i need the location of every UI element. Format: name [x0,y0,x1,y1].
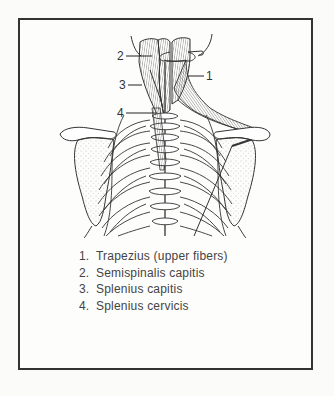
legend-label: Splenius capitis [96,281,183,298]
legend-item: 1. Trapezius (upper fibers) [79,248,228,265]
legend-number: 1. [79,248,96,265]
callout-1: 1 [206,70,213,82]
muscle-legend: 1. Trapezius (upper fibers) 2. Semispina… [79,248,228,315]
legend-number: 4. [79,298,96,315]
legend-item: 2. Semispinalis capitis [79,265,228,282]
legend-number: 2. [79,265,96,282]
callout-3: 3 [119,79,126,91]
neck-back-muscles-illustration [0,0,334,396]
callout-4: 4 [117,107,124,119]
legend-label: Semispinalis capitis [96,265,205,282]
legend-number: 3. [79,281,96,298]
legend-label: Splenius cervicis [96,298,189,315]
legend-item: 4. Splenius cervicis [79,298,228,315]
callout-2: 2 [117,50,124,62]
legend-item: 3. Splenius capitis [79,281,228,298]
legend-label: Trapezius (upper fibers) [96,248,228,265]
